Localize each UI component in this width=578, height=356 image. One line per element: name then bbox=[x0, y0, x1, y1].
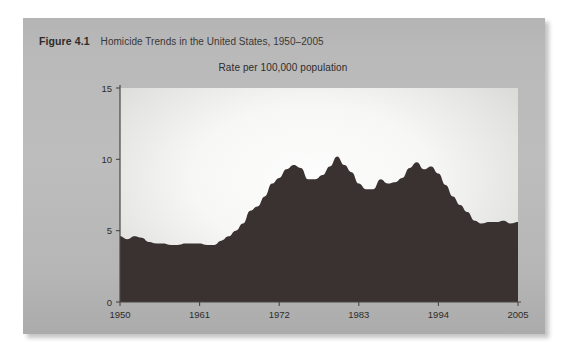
x-tick-label: 1961 bbox=[189, 309, 210, 320]
x-axis-ticks: 195019611972198319942005 bbox=[109, 302, 528, 320]
homicide-rate-area bbox=[120, 156, 518, 302]
figure-title: Homicide Trends in the United States, 19… bbox=[101, 36, 324, 47]
y-tick-label: 0 bbox=[107, 297, 112, 308]
y-tick-label: 15 bbox=[101, 83, 112, 94]
x-tick-label: 1972 bbox=[269, 309, 290, 320]
figure-caption: Figure 4.1Homicide Trends in the United … bbox=[39, 31, 324, 49]
y-tick-label: 10 bbox=[101, 154, 112, 165]
y-tick-label: 5 bbox=[107, 225, 112, 236]
series-area-group bbox=[120, 156, 518, 302]
x-tick-label: 1950 bbox=[109, 309, 130, 320]
x-tick-label: 2005 bbox=[507, 309, 528, 320]
y-axis-ticks: 051015 bbox=[101, 83, 120, 308]
chart-container: Rate per 100,000 population 051015 19501… bbox=[83, 62, 523, 322]
figure-number-label: Figure 4.1 bbox=[39, 35, 90, 47]
page-background: Figure 4.1Homicide Trends in the United … bbox=[0, 0, 578, 356]
x-tick-label: 1994 bbox=[428, 309, 449, 320]
x-tick-label: 1983 bbox=[348, 309, 369, 320]
homicide-trends-area-chart: 051015 195019611972198319942005 bbox=[83, 62, 523, 322]
figure-panel: Figure 4.1Homicide Trends in the United … bbox=[23, 18, 545, 334]
